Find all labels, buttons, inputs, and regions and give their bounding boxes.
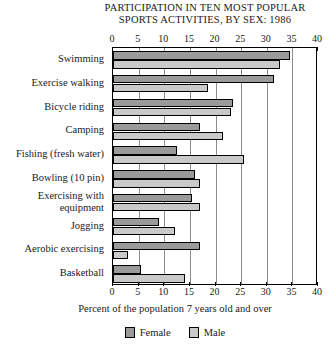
bar-groups [113,48,316,284]
bar-male [113,108,231,116]
x-tick-label: 25 [228,286,252,297]
x-tick-label: 5 [126,286,150,297]
bar-group [113,167,316,191]
x-tick-label: 35 [279,33,303,44]
chart-title-line-1: PARTICIPATION IN TEN MOST POPULAR [80,2,330,14]
bar-female [113,265,141,273]
x-tick-label: 10 [151,286,175,297]
x-tick-label: 0 [100,33,124,44]
bar-male [113,251,128,259]
x-tick-label: 40 [305,33,329,44]
bar-group [113,191,316,215]
category-label: Jogging [71,220,104,232]
x-tick-label: 35 [279,286,303,297]
category-label: Bowling (10 pin) [32,172,104,184]
x-tick-label: 25 [228,33,252,44]
x-tick-label: 30 [254,286,278,297]
plot-area [112,47,317,285]
x-tick-label: 15 [177,286,201,297]
chart-title-line-2: SPORTS ACTIVITIES, BY SEX: 1986 [80,14,330,26]
category-label: Exercising with equipment [0,190,104,213]
bar-group [113,72,316,96]
x-tick-label: 0 [100,286,124,297]
category-label: Basketball [60,267,104,279]
category-label: Exercise walking [31,77,104,89]
x-axis-label: Percent of the population 7 years old an… [30,303,320,314]
x-tick-label: 5 [126,33,150,44]
bar-female [113,218,159,226]
bar-group [113,48,316,72]
bar-male [113,227,175,235]
bar-female [113,194,192,202]
bar-female [113,75,274,83]
bar-male [113,203,200,211]
x-tick-mark [317,47,318,51]
bar-male [113,132,223,140]
legend-swatch-female [125,327,135,338]
bar-group [113,215,316,239]
bar-male [113,60,280,68]
chart-legend: FemaleMale [60,327,290,338]
legend-swatch-male [189,327,199,338]
bar-group [113,238,316,262]
category-label: Aerobic exercising [24,243,104,255]
bar-group [113,119,316,143]
x-tick-label: 30 [254,33,278,44]
bar-group [113,96,316,120]
bar-female [113,146,177,154]
category-label: Swimming [58,53,104,65]
category-label: Camping [66,124,105,136]
category-axis-labels: SwimmingExercise walkingBicycle ridingCa… [0,47,108,285]
legend-item: Female [125,327,171,338]
chart-figure: PARTICIPATION IN TEN MOST POPULAR SPORTS… [0,0,335,354]
x-tick-label: 15 [177,33,201,44]
category-label: Fishing (fresh water) [16,148,104,160]
bar-female [113,123,200,131]
bar-female [113,99,233,107]
x-tick-label: 40 [305,286,329,297]
bar-male [113,155,244,163]
x-tick-label: 20 [203,286,227,297]
bar-female [113,170,195,178]
legend-label: Female [140,327,171,338]
bar-female [113,51,290,59]
bar-male [113,84,208,92]
chart-title: PARTICIPATION IN TEN MOST POPULAR SPORTS… [80,2,330,26]
legend-label: Male [204,327,226,338]
bar-female [113,242,200,250]
x-tick-label: 10 [151,33,175,44]
x-tick-label: 20 [203,33,227,44]
category-label: Bicycle riding [44,101,104,113]
legend-item: Male [189,327,226,338]
bar-male [113,179,200,187]
bar-group [113,143,316,167]
